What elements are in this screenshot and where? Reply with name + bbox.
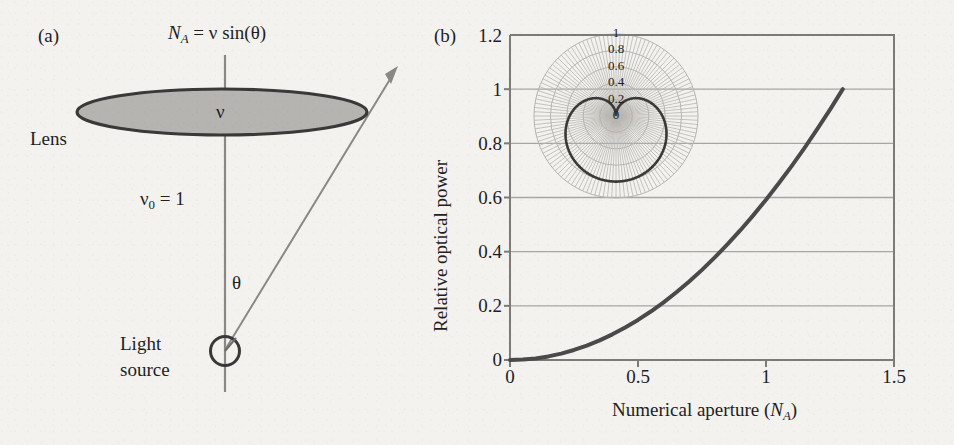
- optical-power-plot: [420, 0, 920, 420]
- index-label: ν0 = 1: [140, 188, 185, 213]
- aperture-symbol-label: ν: [216, 101, 225, 123]
- power-curve: [510, 89, 843, 360]
- light-source-label-line1: Light: [120, 333, 161, 355]
- polar-radial-tick-label: 0.2: [599, 91, 633, 107]
- axis-ticks: [504, 89, 894, 367]
- figure-root: (a) NA = ν sin(θ) Lens ν ν0 = 1 θ Light …: [0, 0, 954, 445]
- lens-label: Lens: [30, 128, 67, 150]
- polar-radial-tick-label: 0: [599, 107, 633, 123]
- light-source-label-line2: source: [120, 359, 170, 381]
- polar-radial-tick-label: 0.6: [599, 58, 633, 74]
- angle-label: θ: [232, 272, 241, 294]
- polar-radial-tick-label: 0.8: [599, 41, 633, 57]
- index-value: = 1: [160, 188, 185, 209]
- lens-diagram: [0, 0, 440, 445]
- index-subscript: 0: [149, 197, 155, 212]
- index-symbol: ν: [140, 188, 149, 209]
- ray-arrowhead: [385, 66, 398, 84]
- polar-radial-tick-label: 1: [599, 25, 633, 41]
- polar-radial-tick-label: 0.4: [599, 74, 633, 90]
